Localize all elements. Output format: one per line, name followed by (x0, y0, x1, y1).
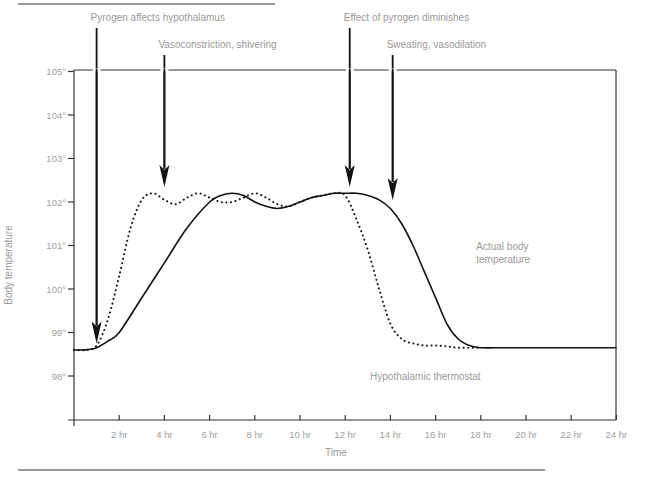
x-axis-label: Time (325, 447, 347, 458)
x-tick-label: 18 hr (470, 429, 492, 440)
y-tick-label: 101° (46, 240, 66, 251)
x-tick-label: 22 hr (560, 429, 582, 440)
x-tick-label: 12 hr (334, 429, 356, 440)
x-tick-label: 2 hr (111, 429, 127, 440)
annotation-label: Vasoconstriction, shivering (158, 39, 276, 50)
x-tick-label: 8 hr (247, 429, 263, 440)
y-axis: 98°99°100°101°102°103°104°105° (46, 66, 74, 382)
series-group (74, 193, 616, 350)
x-tick-label: 14 hr (380, 429, 402, 440)
actual-temperature-series-line (74, 193, 616, 350)
x-tick-label: 10 hr (289, 429, 311, 440)
y-tick-label: 105° (46, 66, 66, 77)
thermostat-series-line (74, 193, 481, 350)
annotation-label: Pyrogen affects hypothalamus (91, 12, 225, 23)
x-axis: 2 hr4 hr6 hr8 hr10 hr12 hr14 hr16 hr18 h… (111, 415, 627, 440)
series-label: temperature (476, 254, 530, 265)
y-tick-label: 102° (46, 197, 66, 208)
y-axis-label: Body temperature (3, 225, 14, 305)
series-label: Hypothalamic thermostat (370, 371, 481, 382)
series-label: Actual body (476, 241, 528, 252)
x-tick-label: 24 hr (606, 429, 628, 440)
annotation-arrows (92, 28, 398, 344)
y-tick-label: 100° (46, 284, 66, 295)
x-tick-label: 16 hr (425, 429, 447, 440)
annotation-label: Sweating, vasodilation (387, 39, 487, 50)
y-tick-label: 103° (46, 153, 66, 164)
x-tick-label: 4 hr (156, 429, 172, 440)
x-tick-label: 6 hr (201, 429, 217, 440)
y-tick-label: 99° (52, 327, 67, 338)
fever-chart: 98°99°100°101°102°103°104°105° 2 hr4 hr6… (0, 0, 650, 477)
annotation-label: Effect of pyrogen diminishes (344, 12, 469, 23)
y-tick-label: 98° (52, 371, 67, 382)
x-tick-label: 20 hr (515, 429, 537, 440)
y-tick-label: 104° (46, 110, 66, 121)
plot-frame (68, 70, 616, 426)
